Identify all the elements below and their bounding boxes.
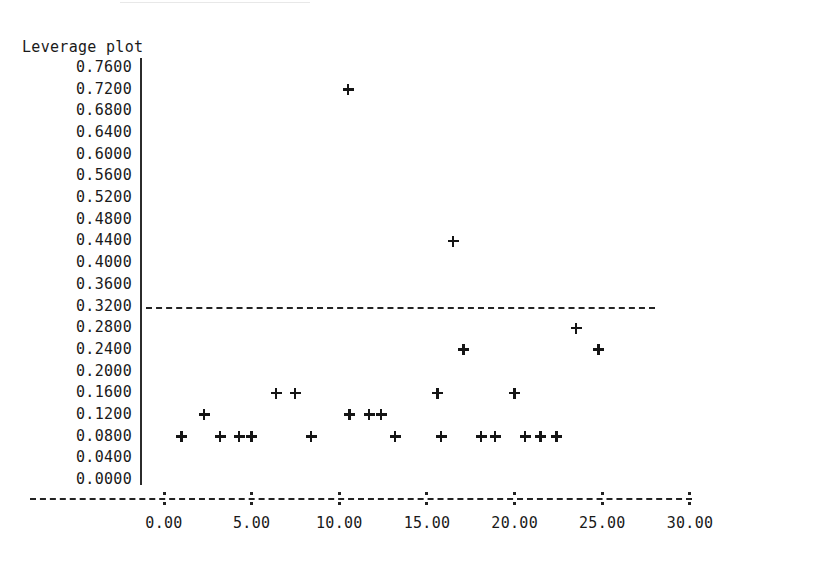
data-point-marker	[199, 409, 210, 420]
data-point-marker	[176, 431, 187, 442]
data-point-marker	[490, 431, 501, 442]
data-point-marker	[246, 431, 257, 442]
x-axis-tick-label: 25.00	[579, 515, 626, 531]
data-point-marker	[306, 431, 317, 442]
data-point-marker	[436, 431, 447, 442]
x-axis-line	[30, 498, 692, 500]
leverage-plot-figure: Leverage plot 0.76000.72000.68000.64000.…	[0, 0, 831, 565]
data-point-marker	[290, 388, 301, 399]
reference-line-threshold	[146, 307, 655, 309]
data-point-marker	[344, 409, 355, 420]
data-point-marker	[364, 409, 375, 420]
x-axis-tick-label: 30.00	[667, 515, 714, 531]
data-point-marker	[432, 388, 443, 399]
data-point-marker	[551, 431, 562, 442]
data-point-marker	[571, 323, 582, 334]
data-point-marker	[215, 431, 226, 442]
plot-data-area	[0, 0, 831, 565]
data-point-marker	[476, 431, 487, 442]
data-point-marker	[509, 388, 520, 399]
x-axis-tick-mark	[338, 492, 341, 506]
data-point-marker	[234, 431, 245, 442]
x-axis-tick-label: 20.00	[491, 515, 538, 531]
data-point-marker	[593, 344, 604, 355]
x-axis-tick-label: 10.00	[316, 515, 363, 531]
x-axis-tick-mark	[250, 492, 253, 506]
x-axis-tick-mark	[163, 492, 166, 506]
data-point-marker	[390, 431, 401, 442]
data-point-marker	[520, 431, 531, 442]
x-axis-tick-mark	[601, 492, 604, 506]
data-point-marker	[448, 236, 459, 247]
data-point-marker	[458, 344, 469, 355]
x-axis-tick-mark	[425, 492, 428, 506]
x-axis-tick-mark	[688, 492, 691, 506]
data-point-marker	[271, 388, 282, 399]
data-point-marker	[343, 84, 354, 95]
x-axis-tick-label: 15.00	[404, 515, 451, 531]
x-axis-tick-label: 5.00	[233, 515, 270, 531]
data-point-marker	[376, 409, 387, 420]
x-axis-tick-mark	[513, 492, 516, 506]
x-axis-tick-label: 0.00	[145, 515, 182, 531]
data-point-marker	[535, 431, 546, 442]
